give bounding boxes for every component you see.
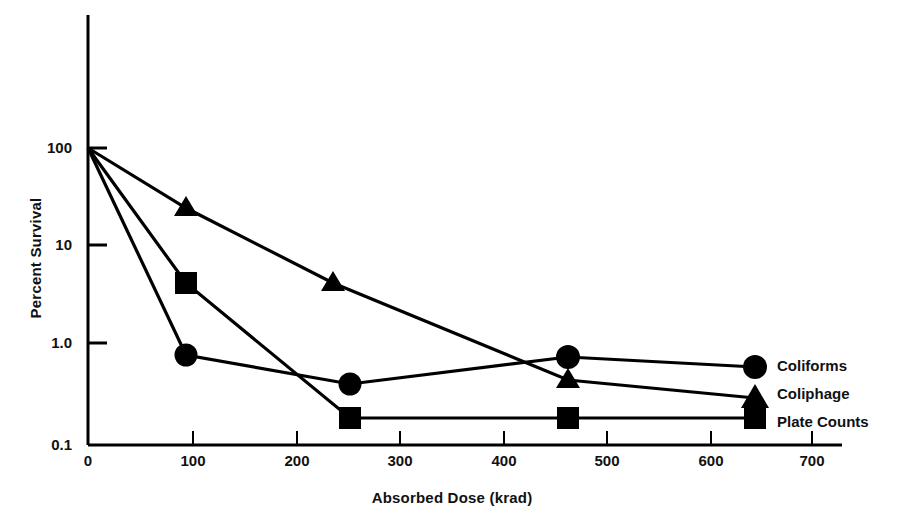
legend-label-coliforms: Coliforms <box>777 357 847 374</box>
y-tick-label-100: 100 <box>10 139 72 156</box>
y-axis-ticks <box>88 148 107 343</box>
x-tick-label-300: 300 <box>370 452 430 469</box>
x-tick-label-200: 200 <box>267 452 327 469</box>
marker-square <box>744 407 766 429</box>
legend-label-coliphage: Coliphage <box>777 385 850 402</box>
marker-square <box>339 407 361 429</box>
y-axis-title: Percent Survival <box>27 198 44 319</box>
x-tick-label-600: 600 <box>681 452 741 469</box>
marker-circle <box>339 373 362 396</box>
x-axis-title: Absorbed Dose (krad) <box>0 489 904 506</box>
x-tick-label-500: 500 <box>577 452 637 469</box>
marker-triangle <box>174 196 198 216</box>
series-markers-coliphage <box>174 196 769 408</box>
x-axis-ticks <box>193 431 812 445</box>
y-tick-label-0.1: 0.1 <box>10 436 72 453</box>
survival-curve-plot <box>0 0 904 528</box>
y-axis-title-wrapper: Percent Survival <box>27 158 47 358</box>
x-tick-label-400: 400 <box>474 452 534 469</box>
x-tick-label-100: 100 <box>163 452 223 469</box>
marker-circle <box>743 355 767 379</box>
marker-square <box>175 272 197 294</box>
marker-circle <box>556 345 580 369</box>
marker-triangle <box>321 271 345 291</box>
series-markers-plate-counts <box>175 272 766 429</box>
chart-figure: 100 10 1.0 0.1 0 100 200 300 400 500 600… <box>0 0 904 528</box>
marker-circle <box>175 344 198 367</box>
chart-axes <box>88 15 842 445</box>
marker-square <box>557 407 579 429</box>
x-tick-label-0: 0 <box>58 452 118 469</box>
x-tick-label-700: 700 <box>782 452 842 469</box>
legend-label-plate-counts: Plate Counts <box>777 413 869 430</box>
